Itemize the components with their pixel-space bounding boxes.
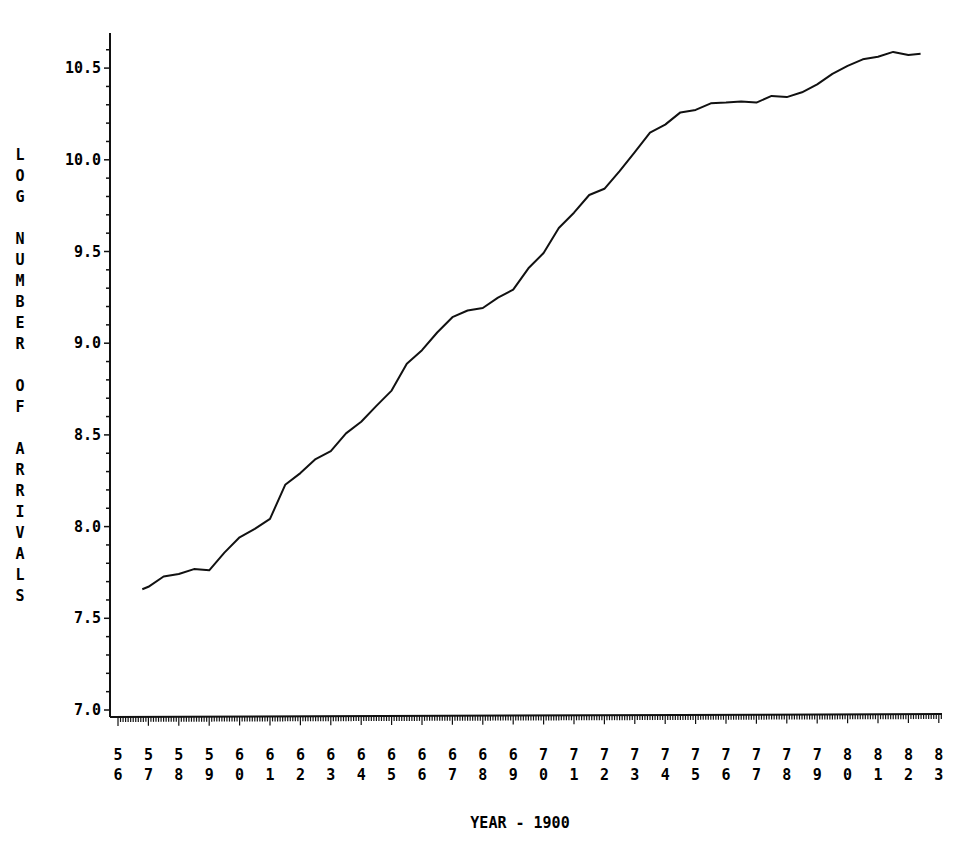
x-tick-label-year: 4 xyxy=(661,766,670,784)
y-label-letter: R xyxy=(15,335,25,353)
x-tick-label-decade: 7 xyxy=(661,746,670,764)
x-tick-label-year: 8 xyxy=(478,766,487,784)
y-label-letter: O xyxy=(15,377,24,395)
x-tick-label-decade: 7 xyxy=(813,746,822,764)
x-tick-label-year: 6 xyxy=(721,766,730,784)
y-tick-label: 7.0 xyxy=(74,701,101,719)
y-label-letter: L xyxy=(15,566,24,584)
x-tick-label-decade: 6 xyxy=(326,746,335,764)
y-tick-label: 9.5 xyxy=(74,243,101,261)
data-line xyxy=(142,52,920,589)
x-tick-label-year: 9 xyxy=(813,766,822,784)
x-tick-label-decade: 7 xyxy=(569,746,578,764)
y-tick-label: 10.5 xyxy=(65,59,101,77)
x-tick-label-year: 0 xyxy=(235,766,244,784)
x-tick-label-year: 4 xyxy=(357,766,366,784)
x-tick-label-year: 1 xyxy=(265,766,274,784)
x-tick-label-year: 1 xyxy=(873,766,882,784)
y-axis-ticks: 7.07.58.08.59.09.510.010.5 xyxy=(65,50,110,719)
x-tick-label-year: 2 xyxy=(904,766,913,784)
x-axis-ticks: 5657585960616263646566676869707172737475… xyxy=(113,714,943,784)
y-label-letter: S xyxy=(15,587,24,605)
y-label-letter: E xyxy=(15,314,24,332)
x-tick-label-decade: 6 xyxy=(417,746,426,764)
x-tick-label-decade: 8 xyxy=(934,746,943,764)
y-tick-label: 9.0 xyxy=(74,334,101,352)
y-tick-label: 7.5 xyxy=(74,609,101,627)
x-tick-label-decade: 8 xyxy=(873,746,882,764)
x-tick-label-decade: 7 xyxy=(600,746,609,764)
x-tick-label-decade: 7 xyxy=(630,746,639,764)
x-tick-label-decade: 6 xyxy=(478,746,487,764)
x-tick-label-decade: 6 xyxy=(235,746,244,764)
x-tick-label-year: 3 xyxy=(326,766,335,784)
x-tick-label-decade: 6 xyxy=(509,746,518,764)
x-tick-label-year: 2 xyxy=(600,766,609,784)
x-tick-label-year: 7 xyxy=(144,766,153,784)
x-tick-label-year: 8 xyxy=(782,766,791,784)
x-tick-label-decade: 7 xyxy=(721,746,730,764)
y-label-letter: A xyxy=(15,545,24,563)
x-tick-label-year: 6 xyxy=(113,766,122,784)
y-label-letter: O xyxy=(15,167,24,185)
y-label-letter: A xyxy=(15,440,24,458)
x-tick-label-decade: 7 xyxy=(752,746,761,764)
y-label-letter: R xyxy=(15,482,25,500)
x-tick-label-decade: 6 xyxy=(357,746,366,764)
x-tick-label-year: 8 xyxy=(174,766,183,784)
x-tick-label-decade: 6 xyxy=(448,746,457,764)
y-label-letter: B xyxy=(15,293,24,311)
y-label-letter: N xyxy=(15,230,24,248)
x-tick-label-year: 0 xyxy=(539,766,548,784)
y-tick-label: 8.5 xyxy=(74,426,101,444)
x-axis-label: YEAR - 1900 xyxy=(470,814,569,832)
y-tick-label: 8.0 xyxy=(74,518,101,536)
x-tick-label-decade: 7 xyxy=(691,746,700,764)
x-tick-label-year: 9 xyxy=(509,766,518,784)
y-label-letter: F xyxy=(15,398,24,416)
y-axis-label: LOGNUMBEROFARRIVALS xyxy=(15,146,25,605)
line-chart: 7.07.58.08.59.09.510.010.5 5657585960616… xyxy=(0,0,967,847)
x-tick-label-year: 3 xyxy=(934,766,943,784)
x-tick-label-year: 7 xyxy=(448,766,457,784)
x-tick-label-decade: 7 xyxy=(539,746,548,764)
x-tick-label-decade: 5 xyxy=(144,746,153,764)
x-tick-label-decade: 5 xyxy=(174,746,183,764)
x-tick-label-decade: 6 xyxy=(296,746,305,764)
y-label-letter: G xyxy=(15,188,24,206)
y-label-letter: L xyxy=(15,146,24,164)
y-label-letter: R xyxy=(15,461,25,479)
x-tick-label-year: 2 xyxy=(296,766,305,784)
x-tick-label-decade: 7 xyxy=(782,746,791,764)
x-tick-label-decade: 5 xyxy=(113,746,122,764)
y-label-letter: I xyxy=(15,503,24,521)
x-tick-label-decade: 6 xyxy=(265,746,274,764)
y-label-letter: U xyxy=(15,251,24,269)
y-label-letter: M xyxy=(15,272,24,290)
x-tick-label-year: 7 xyxy=(752,766,761,784)
x-tick-label-year: 5 xyxy=(387,766,396,784)
x-tick-label-year: 1 xyxy=(569,766,578,784)
x-tick-label-decade: 5 xyxy=(205,746,214,764)
axes xyxy=(110,33,942,717)
x-tick-label-year: 5 xyxy=(691,766,700,784)
x-tick-label-decade: 8 xyxy=(904,746,913,764)
x-tick-label-year: 0 xyxy=(843,766,852,784)
x-tick-label-year: 6 xyxy=(417,766,426,784)
x-tick-label-year: 3 xyxy=(630,766,639,784)
x-tick-label-decade: 8 xyxy=(843,746,852,764)
y-label-letter: V xyxy=(15,524,24,542)
y-tick-label: 10.0 xyxy=(65,151,101,169)
x-tick-label-decade: 6 xyxy=(387,746,396,764)
x-tick-label-year: 9 xyxy=(205,766,214,784)
